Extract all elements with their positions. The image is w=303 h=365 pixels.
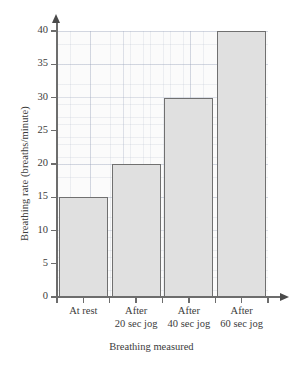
- x-axis-tick: [162, 298, 163, 304]
- y-axis-tick: [51, 97, 57, 98]
- bar: [164, 98, 213, 298]
- bar-series: [57, 31, 268, 297]
- y-axis-tick: [51, 230, 57, 231]
- y-axis-tick-label: 10: [20, 224, 48, 235]
- y-axis-tick: [51, 163, 57, 164]
- x-axis-tick-label: After 60 sec jog: [209, 305, 274, 330]
- x-axis-title: Breathing measured: [0, 341, 303, 352]
- x-axis-arrow-icon: [280, 293, 289, 301]
- y-axis-tick-label: 0: [20, 290, 48, 301]
- y-axis-tick-label: 25: [20, 124, 48, 135]
- y-axis-tick-label: 15: [20, 190, 48, 201]
- y-axis-tick: [51, 64, 57, 65]
- bar-chart: Breathing rate (breaths/minute) 05101520…: [0, 0, 303, 365]
- x-axis-line: [56, 296, 281, 298]
- x-axis-tick: [56, 298, 57, 304]
- y-axis-arrow-icon: [52, 14, 60, 23]
- y-axis-tick-label: 30: [20, 91, 48, 102]
- y-axis-tick: [51, 197, 57, 198]
- x-axis-tick: [267, 298, 268, 304]
- x-axis-tick: [83, 298, 84, 304]
- x-axis-tick: [241, 298, 242, 304]
- x-axis-tick: [135, 298, 136, 304]
- x-axis-tick: [215, 298, 216, 304]
- plot-area: [57, 31, 268, 297]
- y-axis-tick: [51, 30, 57, 31]
- x-axis-tick: [109, 298, 110, 304]
- y-axis-tick-label: 20: [20, 157, 48, 168]
- y-axis-tick-label: 5: [20, 257, 48, 268]
- bar: [217, 31, 266, 297]
- y-axis-tick: [51, 130, 57, 131]
- y-axis-tick-label: 40: [20, 24, 48, 35]
- x-axis-tick: [188, 298, 189, 304]
- bar: [59, 197, 108, 297]
- bar: [112, 164, 161, 297]
- y-axis-tick-label: 35: [20, 57, 48, 68]
- y-axis-tick: [51, 263, 57, 264]
